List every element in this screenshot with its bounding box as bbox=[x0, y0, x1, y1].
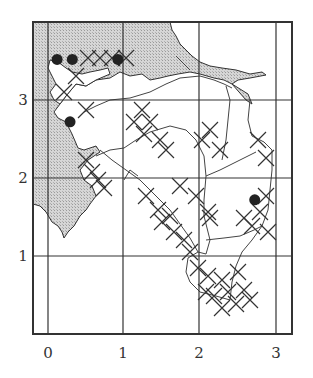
record-cross bbox=[78, 102, 94, 118]
record-cross bbox=[96, 180, 112, 196]
record-cross bbox=[154, 214, 170, 230]
record-dot bbox=[249, 194, 260, 205]
record-cross bbox=[134, 102, 150, 118]
record-cross bbox=[138, 188, 154, 204]
y-axis-ticks: 1 2 3 bbox=[18, 91, 28, 265]
record-cross bbox=[252, 204, 268, 220]
x-tick-3: 3 bbox=[271, 344, 281, 362]
record-cross bbox=[214, 300, 230, 316]
record-cross bbox=[250, 132, 266, 148]
record-cross bbox=[202, 122, 218, 138]
distribution-map: 0 1 2 3 1 2 3 bbox=[0, 0, 313, 378]
record-dot bbox=[65, 116, 76, 127]
cross-markers bbox=[56, 50, 276, 316]
y-tick-3: 3 bbox=[18, 91, 28, 109]
y-tick-2: 2 bbox=[18, 169, 28, 187]
record-cross bbox=[258, 188, 274, 204]
x-tick-0: 0 bbox=[43, 344, 53, 362]
record-cross bbox=[166, 224, 182, 240]
record-cross bbox=[90, 172, 106, 188]
record-cross bbox=[200, 204, 216, 220]
record-cross bbox=[230, 264, 246, 280]
record-cross bbox=[236, 282, 252, 298]
record-cross bbox=[152, 132, 168, 148]
record-cross bbox=[190, 260, 206, 276]
record-dot bbox=[67, 54, 78, 65]
record-cross bbox=[188, 188, 204, 204]
x-axis-ticks: 0 1 2 3 bbox=[43, 344, 281, 362]
x-tick-2: 2 bbox=[194, 344, 204, 362]
record-cross bbox=[126, 114, 142, 130]
record-dot bbox=[112, 54, 123, 65]
shaded-land-area bbox=[33, 22, 266, 238]
y-tick-1: 1 bbox=[18, 247, 28, 265]
record-cross bbox=[244, 218, 260, 234]
record-cross bbox=[260, 224, 276, 240]
record-cross bbox=[200, 268, 216, 284]
record-cross bbox=[172, 178, 188, 194]
x-tick-1: 1 bbox=[118, 344, 128, 362]
record-cross bbox=[228, 296, 244, 312]
record-dot bbox=[52, 54, 63, 65]
record-cross bbox=[212, 142, 228, 158]
record-cross bbox=[158, 142, 174, 158]
record-cross bbox=[242, 292, 258, 308]
